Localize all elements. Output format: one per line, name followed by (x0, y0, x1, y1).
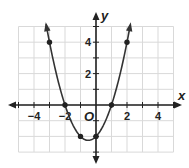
data-point (109, 102, 114, 107)
parabola-graph: −4−22424 x y O (0, 0, 189, 168)
data-point (78, 134, 83, 139)
y-tick-label: 4 (85, 36, 92, 48)
x-axis-label: x (177, 88, 186, 103)
origin-label: O (84, 109, 94, 124)
data-point (62, 102, 67, 107)
y-axis-label: y (100, 8, 109, 23)
x-tick-label: 2 (124, 110, 130, 122)
data-point (47, 40, 52, 45)
y-tick-label: 2 (85, 68, 91, 80)
x-tick-label: 4 (155, 110, 162, 122)
data-point (93, 134, 98, 139)
data-point (124, 40, 129, 45)
x-tick-label: −4 (28, 110, 41, 122)
tick-labels: −4−22424 (28, 36, 162, 122)
